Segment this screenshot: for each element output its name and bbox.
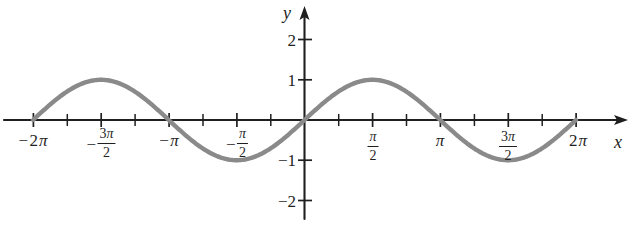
x-axis	[4, 115, 628, 125]
y-axis	[300, 6, 310, 219]
ytick-label-2: 2	[278, 32, 296, 49]
ytick-label-1: 1	[278, 72, 296, 89]
xtick-label-3pi-over-2: 3π2	[499, 128, 517, 164]
xtick-label-neg-3pi-over-2: −3π2	[86, 128, 115, 161]
plot-canvas	[0, 0, 634, 225]
sine-graph-figure: −2π −3π2 −π −π2 π2 π 3π2 2π 2 1 −1 −2 y …	[0, 0, 634, 225]
xtick-label-pi: π	[436, 132, 445, 149]
xtick-label-2pi: 2π	[569, 132, 587, 149]
y-axis-label: y	[283, 4, 291, 22]
xtick-label-neg-2pi: −2π	[18, 132, 47, 149]
xtick-label-pi-over-2: π2	[367, 128, 378, 164]
ytick-label-neg-1: −1	[268, 152, 296, 169]
xtick-label-neg-pi: −π	[159, 132, 179, 149]
xtick-label-neg-pi-over-2: −π2	[226, 128, 248, 161]
x-axis-label: x	[614, 133, 622, 151]
ytick-label-neg-2: −2	[268, 193, 296, 210]
